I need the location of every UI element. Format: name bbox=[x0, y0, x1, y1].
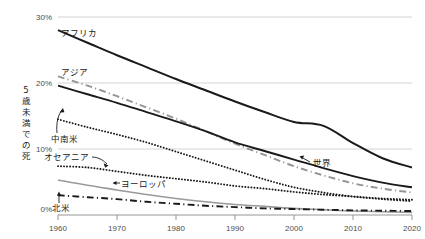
y-tick-30: 30% bbox=[36, 13, 52, 22]
y-tick-20: 20% bbox=[36, 79, 52, 88]
y-axis-title-char-0: 5 bbox=[23, 85, 28, 95]
oceania-leader bbox=[92, 157, 107, 164]
x-tick-labels: 1960 1970 1980 1990 2000 2010 2020 bbox=[49, 224, 421, 233]
series-label-europe: ヨーロッパ bbox=[121, 179, 166, 189]
y-tick-labels: 30% 20% 10% 0% bbox=[36, 13, 52, 214]
world-arrowhead bbox=[300, 155, 305, 159]
north-america-arrowhead bbox=[57, 192, 61, 196]
series-label-oceania: オセアニア bbox=[44, 152, 89, 162]
series-label-north-america: 北米 bbox=[52, 203, 70, 213]
x-tick-2020: 2020 bbox=[403, 224, 421, 233]
x-tick-marks bbox=[58, 215, 412, 220]
series-label-world: 世界 bbox=[313, 158, 331, 168]
x-tick-1980: 1980 bbox=[167, 224, 185, 233]
gridlines bbox=[58, 17, 412, 149]
y-axis-title-char-2: 未 bbox=[22, 107, 31, 117]
chart-container: 30% 20% 10% 0% 1960 1970 1980 1990 2000 … bbox=[0, 0, 425, 239]
y-axis-title-char-3: 満 bbox=[22, 118, 31, 128]
latin-america-arrowhead bbox=[60, 108, 65, 113]
europe-arrowhead bbox=[113, 181, 117, 185]
x-tick-1990: 1990 bbox=[226, 224, 244, 233]
x-tick-1960: 1960 bbox=[49, 224, 67, 233]
series-line-1 bbox=[58, 76, 412, 192]
y-axis-title-char-5: の bbox=[22, 140, 31, 150]
line-chart: 30% 20% 10% 0% 1960 1970 1980 1990 2000 … bbox=[0, 0, 425, 239]
series-line-4 bbox=[58, 166, 412, 200]
series-label-asia: アジア bbox=[61, 67, 88, 77]
series-line-0 bbox=[58, 30, 412, 167]
y-axis-title-char-1: 歳 bbox=[22, 96, 31, 106]
y-tick-0: 0% bbox=[40, 205, 52, 214]
series-label-africa: アフリカ bbox=[61, 28, 97, 38]
x-tick-2000: 2000 bbox=[285, 224, 303, 233]
y-axis-title-char-6: 死 bbox=[22, 151, 31, 161]
x-tick-1970: 1970 bbox=[108, 224, 126, 233]
latin-america-leader bbox=[57, 109, 63, 133]
y-axis-title-char-4: で bbox=[22, 129, 31, 139]
y-axis-title: 5 歳 未 満 で の 死 bbox=[22, 85, 31, 161]
series-line-6 bbox=[58, 195, 412, 211]
series-label-latin-america: 中南米 bbox=[51, 134, 78, 144]
oceania-arrowhead bbox=[104, 163, 109, 168]
x-tick-2010: 2010 bbox=[344, 224, 362, 233]
series-layer bbox=[58, 30, 412, 212]
